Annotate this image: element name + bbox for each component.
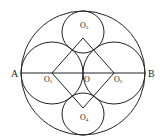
label-O3: O3 [80,21,89,30]
circle-O3 [62,11,104,53]
label-B: B [148,68,155,79]
label-O4: O4 [80,113,89,122]
label-O1: O1 [44,75,53,84]
geometry-diagram: A B O O1 O2 O3 O4 [0,0,160,140]
diagram-canvas: A B O O1 O2 O3 O4 [0,0,160,140]
label-O2: O2 [114,75,123,84]
label-O: O [84,75,90,84]
label-A: A [11,68,19,79]
